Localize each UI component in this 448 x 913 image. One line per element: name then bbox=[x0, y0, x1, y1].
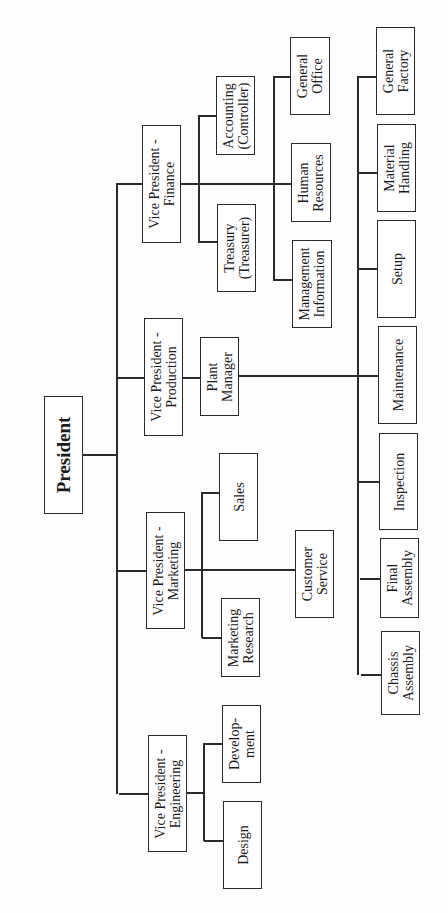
engineering-spine bbox=[186, 792, 204, 794]
node-label: Vice President - Marketing bbox=[151, 526, 181, 615]
node-president: President bbox=[44, 396, 83, 514]
node-management-information: Management Information bbox=[292, 240, 332, 328]
connector-vp-finance bbox=[116, 183, 143, 185]
node-label: General Factory bbox=[381, 49, 411, 93]
node-general-office: General Office bbox=[290, 37, 330, 115]
connector-vp-marketing bbox=[118, 570, 147, 572]
connector-setup bbox=[358, 268, 378, 270]
node-label: Final Assembly bbox=[385, 550, 415, 606]
node-sales: Sales bbox=[219, 453, 258, 541]
production-trunk bbox=[357, 76, 359, 675]
node-treasury: Treasury (Treasurer) bbox=[217, 204, 256, 292]
engineering-trunk bbox=[203, 743, 205, 841]
main-trunk bbox=[116, 183, 118, 794]
connector-accounting bbox=[198, 115, 217, 117]
node-development: Develop- ment bbox=[222, 705, 261, 783]
node-label: General Office bbox=[295, 54, 325, 98]
connector-management-info bbox=[273, 279, 293, 281]
node-label: Maintenance bbox=[390, 339, 405, 411]
node-label: Vice President - Production bbox=[149, 332, 179, 421]
marketing-trunk bbox=[201, 492, 203, 638]
node-label: Treasury (Treasurer) bbox=[222, 217, 252, 279]
node-vp-production: Vice President - Production bbox=[144, 318, 183, 436]
node-label: Inspection bbox=[391, 452, 406, 510]
node-label: Management Information bbox=[297, 247, 327, 320]
node-human-resources: Human Resources bbox=[291, 143, 331, 222]
node-material-handling: Material Handling bbox=[377, 124, 416, 212]
node-label: Chassis Assembly bbox=[386, 645, 416, 701]
org-chart: President Vice President - Finance Vice … bbox=[0, 0, 448, 913]
node-plant-manager: Plant Manager bbox=[200, 337, 239, 416]
node-label: Customer Service bbox=[300, 547, 330, 601]
node-inspection: Inspection bbox=[379, 433, 418, 530]
node-label: Sales bbox=[231, 482, 246, 512]
node-label: Accounting (Controller) bbox=[221, 82, 251, 149]
node-setup: Setup bbox=[377, 220, 416, 318]
node-label: Vice President - Engineering bbox=[153, 749, 183, 838]
connector-president bbox=[82, 454, 117, 456]
connector-sales bbox=[201, 492, 220, 494]
node-label: Develop- ment bbox=[227, 718, 257, 770]
node-marketing-research: Marketing Research bbox=[221, 598, 260, 677]
node-customer-service: Customer Service bbox=[295, 530, 334, 618]
connector-inspection bbox=[359, 481, 380, 483]
connector-general-office bbox=[273, 76, 291, 78]
connector-plant-manager bbox=[182, 377, 201, 379]
connector-marketing-research bbox=[202, 637, 222, 639]
node-general-factory: General Factory bbox=[376, 27, 415, 115]
node-label: Design bbox=[235, 825, 250, 865]
connector-material-handling bbox=[357, 172, 378, 174]
node-final-assembly: Final Assembly bbox=[380, 538, 419, 618]
node-vp-finance: Vice President - Finance bbox=[142, 125, 181, 243]
connector-vp-engineering bbox=[119, 793, 149, 795]
node-vp-marketing: Vice President - Marketing bbox=[146, 512, 185, 629]
connector-final-assembly bbox=[360, 578, 381, 580]
node-vp-engineering: Vice President - Engineering bbox=[148, 735, 187, 852]
node-label: Plant Manager bbox=[205, 352, 235, 402]
node-label: Vice President - Finance bbox=[147, 139, 177, 228]
node-label: President bbox=[54, 417, 74, 494]
connector-treasury bbox=[198, 241, 218, 243]
node-accounting: Accounting (Controller) bbox=[216, 76, 255, 155]
finance-spine bbox=[180, 183, 292, 185]
node-maintenance: Maintenance bbox=[378, 326, 417, 424]
connector-chassis-assembly bbox=[361, 674, 382, 676]
node-label: Material Handling bbox=[382, 142, 412, 194]
node-design: Design bbox=[223, 801, 262, 889]
node-label: Setup bbox=[389, 253, 404, 285]
connector-general-factory bbox=[357, 76, 377, 78]
node-chassis-assembly: Chassis Assembly bbox=[381, 631, 420, 715]
connector-vp-production bbox=[117, 377, 145, 379]
finance-trunk-1 bbox=[198, 115, 200, 242]
node-label: Human Resources bbox=[296, 154, 326, 212]
finance-trunk-2 bbox=[273, 76, 275, 280]
connector-development bbox=[203, 743, 223, 745]
node-label: Marketing Research bbox=[226, 608, 256, 666]
connector-design bbox=[204, 840, 224, 842]
